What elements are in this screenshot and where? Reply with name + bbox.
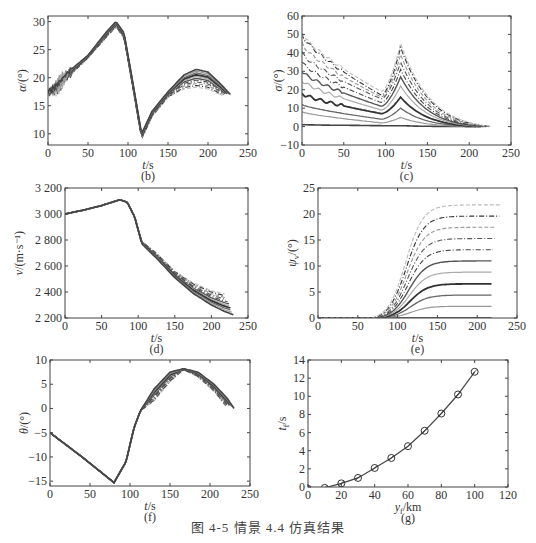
data-series	[50, 369, 232, 483]
y-tick-label: −10	[280, 138, 299, 152]
y-tick-label: −10	[28, 450, 47, 464]
x-tick-label: 0	[315, 319, 321, 333]
plot-area	[305, 368, 479, 492]
data-series	[65, 200, 229, 304]
chart-d: 0501001502002502 2002 4002 6002 8003 000…	[12, 181, 257, 356]
data-series	[48, 28, 222, 138]
data-series	[318, 306, 492, 318]
data-series	[48, 22, 230, 132]
y-tick-label: 20	[33, 71, 45, 85]
x-tick-label: 0	[299, 146, 305, 160]
y-tick-label: 2 200	[35, 311, 62, 325]
y-tick-label: 10	[303, 259, 315, 273]
data-series	[50, 369, 231, 482]
y-tick-label: 25	[303, 181, 315, 195]
data-series	[50, 370, 229, 483]
y-tick-label: 30	[33, 15, 45, 29]
x-tick-label: 150	[428, 319, 446, 333]
chart-e: 0501001502002500510152025t/s(e)ψv/(°)	[285, 181, 526, 356]
x-tick-label: 250	[241, 487, 259, 501]
x-tick-label: 120	[499, 488, 517, 502]
data-series	[48, 26, 224, 136]
y-tick-label: 2	[299, 462, 305, 476]
x-tick-label: 0	[45, 146, 51, 160]
x-tick-label: 50	[338, 146, 350, 160]
y-tick-label: 30	[287, 64, 299, 78]
data-series	[65, 200, 228, 302]
x-tick-label: 100	[466, 488, 484, 502]
data-series	[50, 370, 226, 483]
data-series	[65, 200, 230, 308]
data-series	[48, 26, 226, 136]
y-tick-label: 0	[309, 311, 315, 325]
x-tick-label: 50	[84, 487, 96, 501]
y-tick-label: 10	[35, 353, 47, 367]
chart-b: 0501001502002501015202530t/s(b)α/(°)	[15, 15, 257, 183]
data-series	[302, 33, 493, 126]
x-tick-label: 100	[121, 487, 139, 501]
panel-label: (e)	[411, 342, 424, 356]
y-tick-label: −15	[28, 474, 47, 488]
y-tick-label: 20	[303, 207, 315, 221]
data-series	[50, 370, 228, 483]
x-tick-label: 150	[166, 319, 184, 333]
y-tick-label: 6	[299, 426, 305, 440]
data-series	[65, 200, 226, 298]
x-tick-label: 50	[352, 319, 364, 333]
data-series	[50, 370, 229, 483]
y-tick-label: 60	[287, 9, 299, 23]
y-tick-label: 15	[303, 233, 315, 247]
y-axis-label: tf/s	[275, 416, 291, 430]
y-axis-label: v/(m·s⁻¹)	[12, 231, 26, 275]
chart-g: 02040608010012002468101214yf/km(g)tf/s	[275, 353, 517, 525]
x-tick-label: 0	[305, 488, 311, 502]
data-series	[48, 25, 226, 135]
y-axis-label: ψv/(°)	[285, 239, 301, 267]
x-tick-label: 250	[508, 319, 526, 333]
figure-canvas: 0501001502002501015202530t/s(b)α/(°)0501…	[0, 0, 536, 543]
plot-area	[50, 369, 234, 483]
x-tick-label: 250	[239, 146, 257, 160]
data-series	[50, 370, 228, 483]
x-tick-label: 150	[418, 146, 436, 160]
data-series	[50, 370, 226, 483]
panel-label: (d)	[150, 342, 164, 356]
y-tick-label: 0	[299, 480, 305, 494]
x-tick-label: 200	[202, 319, 220, 333]
x-tick-label: 80	[435, 488, 447, 502]
x-tick-label: 100	[389, 319, 407, 333]
y-tick-label: 3 200	[35, 181, 62, 195]
x-tick-label: 50	[82, 146, 94, 160]
y-tick-label: 5	[309, 285, 315, 299]
y-tick-label: 50	[287, 27, 299, 41]
y-axis-label: α/(°)	[15, 69, 29, 91]
y-tick-label: 2 600	[35, 259, 62, 273]
axes-box	[50, 360, 250, 486]
chart-c: 050100150200250−100102030405060t/s(c)σ/(…	[271, 9, 520, 183]
data-series	[65, 200, 226, 300]
panel-label: (c)	[400, 169, 413, 183]
y-tick-label: 14	[293, 353, 305, 367]
y-tick-label: 10	[293, 389, 305, 403]
x-tick-label: 150	[161, 487, 179, 501]
y-tick-label: 40	[287, 46, 299, 60]
y-tick-label: 10	[287, 101, 299, 115]
y-tick-label: 5	[41, 377, 47, 391]
x-tick-label: 100	[129, 319, 147, 333]
x-tick-label: 40	[369, 488, 381, 502]
x-tick-label: 100	[119, 146, 137, 160]
y-tick-label: 0	[41, 401, 47, 415]
data-series	[50, 369, 234, 483]
y-tick-label: 8	[299, 407, 305, 421]
x-tick-label: 200	[201, 487, 219, 501]
y-tick-label: 25	[33, 43, 45, 57]
data-series	[48, 28, 222, 138]
plot-area	[318, 205, 501, 318]
y-tick-label: 12	[293, 371, 305, 385]
x-tick-label: 150	[159, 146, 177, 160]
y-tick-label: 20	[287, 83, 299, 97]
y-tick-label: 2 400	[35, 285, 62, 299]
x-tick-label: 20	[335, 488, 347, 502]
x-tick-label: 0	[62, 319, 68, 333]
x-tick-label: 200	[460, 146, 478, 160]
